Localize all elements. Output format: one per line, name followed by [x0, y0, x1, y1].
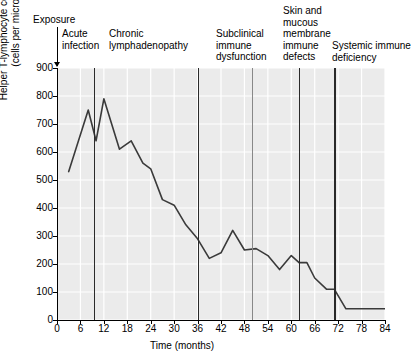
x-tick-mark — [80, 320, 81, 324]
y-tick-label: 500 — [23, 175, 53, 185]
x-tick-mark — [268, 320, 269, 324]
y-tick-mark — [53, 124, 57, 125]
chart-container: 0100200300400500600700800900 06121824303… — [0, 0, 417, 359]
x-tick-mark — [57, 320, 58, 324]
y-axis-line — [57, 68, 58, 320]
y-tick-mark — [53, 236, 57, 237]
x-tick-mark — [221, 320, 222, 324]
x-tick-mark — [291, 320, 292, 324]
x-tick-mark — [104, 320, 105, 324]
y-tick-mark — [53, 208, 57, 209]
annotation-skin-line3: membrane — [283, 28, 331, 39]
y-tick-mark — [53, 264, 57, 265]
annotation-subclinical-line3: dysfunction — [216, 51, 267, 62]
x-tick-label: 84 — [370, 324, 400, 334]
y-tick-label: 400 — [23, 203, 53, 213]
y-tick-label: 100 — [23, 287, 53, 297]
y-tick-label: 600 — [23, 147, 53, 157]
plot-svg — [57, 68, 385, 320]
x-tick-mark — [151, 320, 152, 324]
annotation-skin-line1: Skin and — [283, 5, 322, 16]
annotation-skin-line5: defects — [283, 51, 315, 62]
x-tick-mark — [385, 320, 386, 324]
marker-line-skin-mucous-membrane-immune-defects — [299, 68, 300, 320]
annotation-chronic-line1: Chronic — [109, 28, 143, 39]
annotation-systemic-immune-deficiency: Systemic immune deficiency — [332, 40, 411, 63]
x-tick-mark — [198, 320, 199, 324]
annotation-subclinical-immune-dysfunction: Subclinical immune dysfunction — [216, 28, 267, 63]
annotation-acute-line2: infection — [62, 40, 99, 51]
annotation-skin-mucous-membrane-immune-defects: Skin and mucous membrane immune defects — [283, 5, 331, 63]
annotation-systemic-line1: Systemic immune — [332, 40, 411, 51]
annotation-subclinical-line2: immune — [216, 40, 252, 51]
annotation-exposure: Exposure — [33, 14, 75, 26]
y-axis-title-line2: (cells per microliter) — [10, 0, 21, 67]
annotation-subclinical-line1: Subclinical — [216, 28, 264, 39]
y-tick-mark — [53, 180, 57, 181]
x-tick-mark — [362, 320, 363, 324]
x-tick-mark — [244, 320, 245, 324]
annotation-skin-line4: immune — [283, 40, 319, 51]
y-tick-mark — [53, 152, 57, 153]
x-tick-mark — [338, 320, 339, 324]
marker-line-acute-infection — [94, 68, 95, 320]
y-tick-label: 300 — [23, 231, 53, 241]
annotation-acute-infection: Acute infection — [62, 28, 99, 51]
y-tick-mark — [53, 96, 57, 97]
x-tick-mark — [315, 320, 316, 324]
annotation-chronic-line2: lymphadenopathy — [109, 40, 188, 51]
x-tick-mark — [127, 320, 128, 324]
exposure-arrow-icon — [57, 27, 58, 66]
marker-line-subclinical-immune-dysfunction — [252, 68, 253, 320]
y-tick-label: 900 — [23, 63, 53, 73]
y-tick-mark — [53, 68, 57, 69]
x-axis-title: Time (months) — [150, 340, 214, 351]
marker-line-systemic-immune-deficiency — [334, 68, 335, 320]
y-axis-title-line1: Helper T-lymphocyte concentration — [0, 0, 9, 100]
y-axis-title: Helper T-lymphocyte concentration (cells… — [0, 0, 22, 108]
x-tick-mark — [174, 320, 175, 324]
annotation-chronic-lymphadenopathy: Chronic lymphadenopathy — [109, 28, 188, 51]
annotation-acute-line1: Acute — [62, 28, 88, 39]
y-tick-label: 200 — [23, 259, 53, 269]
y-tick-mark — [53, 292, 57, 293]
marker-line-chronic-lymphadenopathy — [198, 68, 199, 320]
annotation-skin-line2: mucous — [283, 17, 318, 28]
y-tick-label: 800 — [23, 91, 53, 101]
plot-area — [57, 68, 385, 320]
annotation-systemic-line2: deficiency — [332, 52, 376, 63]
y-tick-label: 700 — [23, 119, 53, 129]
